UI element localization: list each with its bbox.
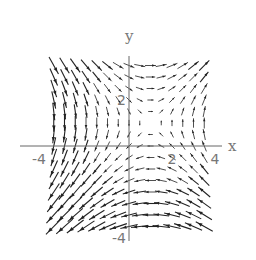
- arrow-head-icon: [96, 125, 98, 128]
- arrow-head-icon: [85, 125, 88, 128]
- arrow-head-icon: [62, 159, 65, 163]
- arrow-head-icon: [123, 203, 127, 206]
- x-tick-label: 2: [168, 151, 177, 167]
- arrow-head-icon: [124, 191, 128, 194]
- arrow-head-icon: [64, 79, 67, 83]
- arrow-head-icon: [152, 88, 154, 90]
- arrow-head-icon: [204, 84, 207, 87]
- arrow-head-icon: [101, 215, 105, 218]
- arrow-head-icon: [49, 193, 53, 198]
- arrow-head-icon: [193, 96, 195, 99]
- arrow-head-icon: [117, 124, 119, 126]
- arrow-head-icon: [112, 214, 116, 217]
- y-axis-label: y: [124, 27, 134, 45]
- arrow-head-icon: [177, 201, 181, 204]
- x-axis-label: x: [228, 137, 237, 155]
- arrow-head-icon: [91, 215, 96, 219]
- arrow-head-icon: [61, 171, 64, 175]
- arrow-head-icon: [202, 153, 205, 156]
- arrow-head-icon: [101, 226, 106, 229]
- arrow-head-icon: [192, 119, 194, 122]
- arrow-head-icon: [51, 160, 54, 165]
- arrow-head-icon: [73, 159, 76, 163]
- arrow-head-icon: [64, 67, 68, 72]
- arrow-head-icon: [182, 119, 184, 121]
- vector-field-plot: x y -4242-4: [0, 0, 256, 260]
- arrow-head-icon: [106, 147, 108, 150]
- arrow-head-icon: [96, 101, 98, 104]
- arrow-head-icon: [168, 167, 171, 169]
- arrow-head-icon: [80, 227, 85, 231]
- arrow-head-icon: [54, 67, 58, 72]
- arrow-head-icon: [75, 90, 78, 94]
- arrow-head-icon: [124, 180, 127, 182]
- arrow-head-icon: [162, 87, 165, 89]
- arrow-head-icon: [177, 213, 181, 216]
- arrow-head-icon: [192, 142, 194, 145]
- arrow-head-icon: [146, 179, 149, 181]
- arrow-head-icon: [114, 180, 117, 183]
- arrow-head-icon: [187, 212, 191, 215]
- arrow-head-icon: [171, 132, 173, 134]
- arrow-head-icon: [94, 158, 97, 161]
- arrow-head-icon: [85, 101, 88, 105]
- arrow-head-icon: [95, 147, 97, 150]
- arrow-head-icon: [72, 170, 75, 174]
- arrow-head-icon: [53, 79, 56, 84]
- x-tick-label: -4: [32, 151, 46, 167]
- arrow-head-icon: [173, 64, 176, 66]
- arrow-head-icon: [198, 211, 203, 215]
- arrow-head-icon: [118, 112, 120, 115]
- arrow-head-icon: [148, 134, 150, 135]
- arrow-head-icon: [53, 91, 56, 96]
- tick-labels: -4242-4: [32, 92, 220, 246]
- y-tick-label: 2: [117, 92, 126, 108]
- arrow-head-icon: [136, 157, 139, 159]
- arrow-head-icon: [125, 169, 128, 171]
- arrow-head-icon: [117, 135, 119, 138]
- arrow-head-icon: [106, 124, 108, 127]
- arrow-head-icon: [204, 95, 206, 98]
- arrow-head-icon: [84, 159, 87, 163]
- arrow-head-icon: [107, 101, 109, 104]
- arrow-head-icon: [130, 77, 133, 79]
- arrow-head-icon: [152, 76, 155, 78]
- arrow-head-icon: [152, 64, 155, 66]
- x-tick-label: 4: [211, 151, 220, 167]
- arrow-head-icon: [198, 223, 203, 227]
- arrow-head-icon: [112, 226, 117, 229]
- arrow-head-icon: [151, 111, 153, 112]
- arrow-head-icon: [173, 75, 176, 77]
- arrow-head-icon: [171, 120, 173, 122]
- arrow-head-icon: [158, 156, 161, 158]
- arrow-head-icon: [50, 182, 54, 187]
- arrow-head-icon: [102, 203, 106, 206]
- arrow-head-icon: [176, 224, 181, 227]
- arrow-head-icon: [181, 131, 183, 134]
- arrow-head-icon: [113, 192, 117, 195]
- arrow-head-icon: [151, 99, 153, 101]
- arrow-head-icon: [182, 108, 184, 111]
- arrow-head-icon: [178, 190, 182, 193]
- arrow-head-icon: [167, 179, 170, 181]
- arrow-head-icon: [119, 65, 122, 68]
- arrow-head-icon: [172, 109, 174, 111]
- arrow-head-icon: [184, 63, 187, 66]
- arrow-head-icon: [73, 148, 76, 152]
- arrow-head-icon: [90, 226, 95, 230]
- arrow-head-icon: [51, 171, 54, 176]
- arrow-head-icon: [130, 65, 133, 67]
- y-tick-label: -4: [112, 230, 126, 246]
- arrow-head-icon: [61, 182, 65, 187]
- arrow-head-icon: [64, 90, 67, 94]
- arrow-head-icon: [147, 157, 149, 159]
- arrow-head-icon: [113, 203, 117, 206]
- arrow-head-icon: [187, 224, 192, 227]
- arrow-head-icon: [188, 200, 192, 203]
- arrow-head-icon: [202, 141, 204, 144]
- arrow-head-icon: [139, 124, 140, 126]
- arrow-head-icon: [141, 88, 144, 90]
- arrow-head-icon: [178, 178, 181, 181]
- arrow-head-icon: [140, 100, 142, 102]
- arrow-head-icon: [97, 89, 100, 92]
